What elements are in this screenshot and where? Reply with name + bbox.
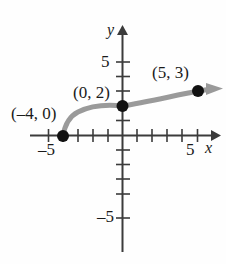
point-label-5-3: (5, 3) [152, 64, 189, 81]
plot-point-neg4-0 [57, 130, 69, 142]
y-tick-label-neg5: –5 [97, 208, 114, 225]
point-label-neg4-0: (–4, 0) [11, 105, 56, 122]
curve-arrow-icon [206, 83, 223, 95]
x-tick-label-neg5: –5 [38, 141, 55, 158]
graph-figure: y x –5 5 5 –5 (–4, 0) (0, 2) (5, 3) [0, 0, 226, 264]
point-label-0-2: (0, 2) [73, 84, 110, 101]
y-axis-arrow-icon [117, 25, 128, 35]
plot-point-0-2 [117, 100, 129, 112]
x-tick-label-5: 5 [186, 141, 195, 158]
x-axis-arrow-icon [211, 130, 221, 141]
x-axis-label: x [205, 140, 212, 156]
y-tick-label-5: 5 [101, 53, 110, 70]
plot-point-5-3 [192, 85, 204, 97]
y-axis-label: y [107, 22, 114, 38]
